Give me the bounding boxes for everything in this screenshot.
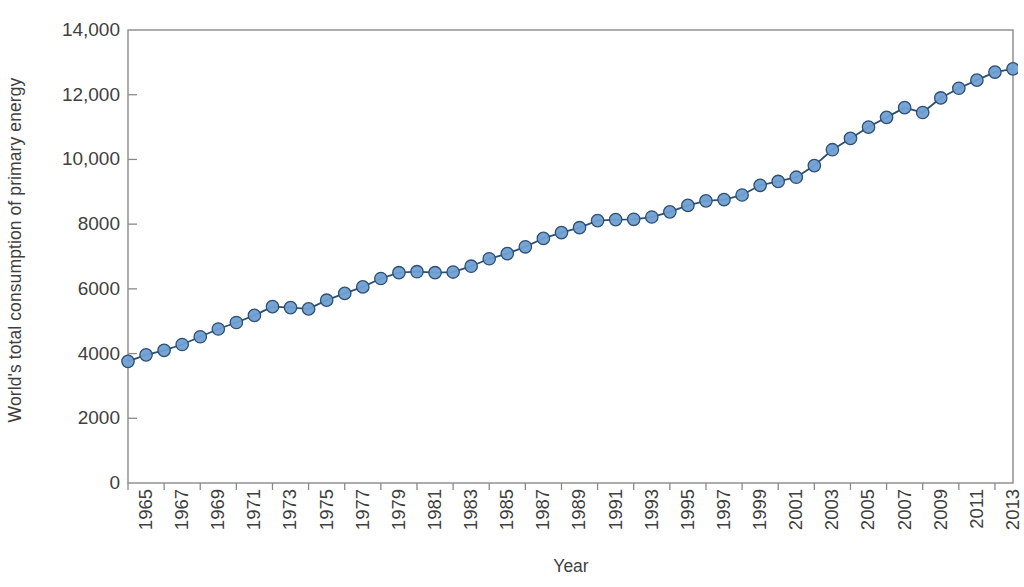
data-point-marker	[772, 175, 784, 187]
data-point-marker	[266, 300, 278, 312]
data-point-marker	[754, 179, 766, 191]
data-point-marker	[880, 111, 892, 123]
data-point-marker	[411, 266, 423, 278]
data-point-marker	[230, 316, 242, 328]
data-point-marker	[609, 213, 621, 225]
data-point-marker	[158, 344, 170, 356]
data-point-marker	[339, 287, 351, 299]
data-point-marker	[628, 213, 640, 225]
data-point-marker	[555, 226, 567, 238]
data-point-marker	[989, 66, 1001, 78]
plot-frame	[128, 30, 1013, 483]
data-point-marker	[447, 266, 459, 278]
data-point-marker	[302, 303, 314, 315]
data-point-marker	[953, 82, 965, 94]
data-point-marker	[284, 301, 296, 313]
data-point-marker	[248, 309, 260, 321]
data-point-marker	[140, 349, 152, 361]
data-point-marker	[790, 171, 802, 183]
data-point-marker	[664, 206, 676, 218]
data-point-marker	[375, 272, 387, 284]
data-point-marker	[591, 214, 603, 226]
data-point-marker	[646, 211, 658, 223]
data-point-marker	[212, 323, 224, 335]
data-point-marker	[916, 106, 928, 118]
data-point-marker	[320, 294, 332, 306]
data-point-marker	[898, 101, 910, 113]
data-point-marker	[1007, 63, 1018, 75]
data-point-marker	[826, 144, 838, 156]
data-point-marker	[935, 92, 947, 104]
data-point-marker	[465, 260, 477, 272]
data-point-marker	[736, 189, 748, 201]
data-point-marker	[519, 241, 531, 253]
data-point-marker	[700, 195, 712, 207]
x-axis-title: Year	[128, 556, 1014, 577]
data-point-marker	[429, 266, 441, 278]
data-point-marker	[537, 232, 549, 244]
data-point-marker	[971, 74, 983, 86]
data-point-marker	[194, 331, 206, 343]
data-point-marker	[393, 266, 405, 278]
data-point-marker	[808, 159, 820, 171]
data-point-marker	[682, 199, 694, 211]
data-point-marker	[862, 121, 874, 133]
data-point-marker	[844, 132, 856, 144]
data-point-marker	[718, 193, 730, 205]
data-point-marker	[573, 222, 585, 234]
data-point-marker	[122, 355, 134, 367]
data-point-marker	[501, 247, 513, 259]
data-point-marker	[483, 253, 495, 265]
data-point-marker	[357, 281, 369, 293]
data-point-marker	[176, 338, 188, 350]
